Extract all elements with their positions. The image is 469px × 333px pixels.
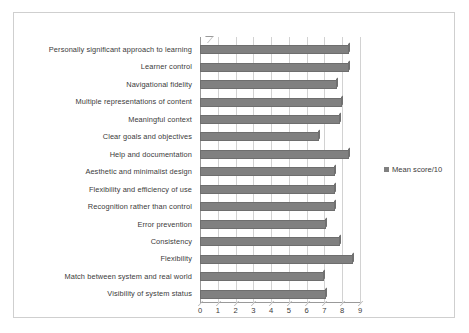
legend-label: Mean score/10: [392, 165, 442, 174]
category-label: Flexibility and efficiency of use: [28, 181, 196, 198]
bar-row: [200, 250, 360, 267]
chart-frame: Personally significant approach to learn…: [13, 12, 455, 318]
category-label: Multiple representations of content: [28, 93, 196, 110]
category-label: Clear goals and objectives: [28, 128, 196, 145]
category-label: Error prevention: [28, 216, 196, 233]
bar-row: [200, 268, 360, 285]
category-label: Personally significant approach to learn…: [28, 41, 196, 58]
bar: [200, 63, 349, 72]
bar-row: [200, 58, 360, 75]
bar-row: [200, 128, 360, 145]
category-label: Navigational fidelity: [28, 76, 196, 93]
chart-legend: Mean score/10: [384, 165, 442, 174]
category-axis-labels: Personally significant approach to learn…: [28, 41, 196, 303]
bar: [200, 150, 349, 159]
category-label: Help and documentation: [28, 146, 196, 163]
bar-row: [200, 146, 360, 163]
category-label: Flexibility: [28, 250, 196, 267]
bar-rows: [200, 41, 360, 303]
bar: [200, 290, 326, 299]
x-tick-label: 6: [305, 306, 309, 315]
bar: [200, 98, 342, 107]
bar: [200, 45, 349, 54]
x-tick-label: 1: [216, 306, 220, 315]
plot-area: [200, 41, 360, 303]
bar-row: [200, 76, 360, 93]
bar: [200, 80, 337, 89]
bar-row: [200, 163, 360, 180]
x-tick-label: 0: [198, 306, 202, 315]
category-label: Aesthetic and minimalist design: [28, 163, 196, 180]
bar: [200, 185, 335, 194]
x-axis-tick-labels: 0123456789: [200, 306, 360, 320]
bar-row: [200, 93, 360, 110]
x-tick-label: 7: [322, 306, 326, 315]
category-label: Consistency: [28, 233, 196, 250]
legend-swatch-icon: [384, 167, 389, 172]
bar: [200, 167, 335, 176]
x-tick-label: 8: [340, 306, 344, 315]
x-tick-label: 3: [251, 306, 255, 315]
x-tick-label: 9: [358, 306, 362, 315]
chart-figure: Personally significant approach to learn…: [0, 0, 469, 333]
x-tick-label: 5: [287, 306, 291, 315]
category-label: Learner control: [28, 58, 196, 75]
bar-row: [200, 41, 360, 58]
category-label: Recognition rather than control: [28, 198, 196, 215]
bar-row: [200, 111, 360, 128]
plot-right-border: [360, 37, 361, 303]
bar: [200, 272, 324, 281]
category-label: Visibility of system status: [28, 285, 196, 302]
bar: [200, 255, 353, 264]
x-tick-label: 4: [269, 306, 273, 315]
bar-row: [200, 233, 360, 250]
bar-row: [200, 198, 360, 215]
bar-row: [200, 216, 360, 233]
bar: [200, 237, 340, 246]
x-tick-label: 2: [233, 306, 237, 315]
bar: [200, 202, 335, 211]
category-label: Meaningful context: [28, 111, 196, 128]
bar: [200, 220, 326, 229]
bar: [200, 132, 319, 141]
category-label: Match between system and real world: [28, 268, 196, 285]
bar: [200, 115, 340, 124]
bar-row: [200, 181, 360, 198]
